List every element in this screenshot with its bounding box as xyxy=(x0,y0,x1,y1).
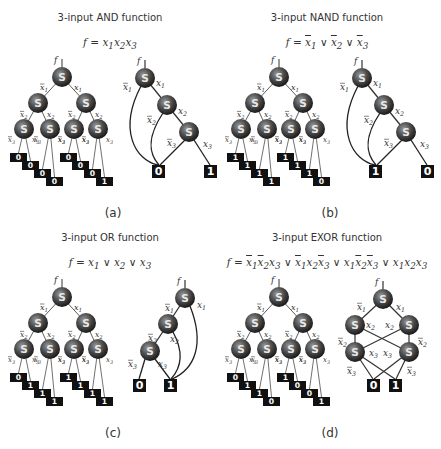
switch-node: S xyxy=(257,339,277,359)
svg-text:x1: x1 xyxy=(373,78,382,89)
edge xyxy=(139,359,145,379)
svg-text:x3: x3 xyxy=(158,359,167,370)
svg-text:x3: x3 xyxy=(383,348,392,359)
switch-node: S xyxy=(64,339,84,359)
edge-label: x3 xyxy=(369,348,378,359)
svg-text:x2: x2 xyxy=(147,115,156,126)
switch-node: S xyxy=(28,93,48,113)
svg-text:x3: x3 xyxy=(225,356,232,365)
svg-text:x3: x3 xyxy=(82,356,89,365)
output-label: f xyxy=(353,56,359,66)
svg-text:S: S xyxy=(351,319,359,331)
switch-node: S xyxy=(52,287,72,307)
panel-d: fx1x1x2x2x2x2x3x3x3x3x3x3x3x3SSSSSSS0110… xyxy=(225,275,427,406)
svg-text:x2: x2 xyxy=(95,110,103,120)
edge-label: x1 xyxy=(257,303,265,313)
svg-text:x2: x2 xyxy=(312,330,320,340)
svg-text:1: 1 xyxy=(102,397,107,406)
svg-text:S: S xyxy=(299,97,307,109)
terminal-leaf: 0 xyxy=(10,153,27,162)
svg-text:S: S xyxy=(82,317,90,329)
svg-text:1: 1 xyxy=(269,177,274,186)
svg-text:S: S xyxy=(185,126,193,138)
edge-label: x1 xyxy=(291,83,299,93)
diagram-canvas: fx1x1x2x2x2x2x3x3x3x3x3x3x3x3SSSSSSS0000… xyxy=(0,0,441,449)
svg-text:x3: x3 xyxy=(384,138,393,149)
output-label: f xyxy=(53,55,59,65)
output-label: f xyxy=(176,276,182,286)
svg-text:1: 1 xyxy=(102,177,107,186)
svg-text:x2: x2 xyxy=(338,337,347,348)
svg-text:x2: x2 xyxy=(47,330,55,340)
edge-label: x3 xyxy=(167,138,176,149)
switch-node: S xyxy=(374,95,394,115)
edge-label: x2 xyxy=(147,115,156,126)
svg-text:x3: x3 xyxy=(167,138,176,149)
switch-node: S xyxy=(52,67,72,87)
boolean-formula: f = x1x2x3 ∨ x1x2x3 ∨ x1x2x3 ∨ x1x2x3 xyxy=(217,256,437,271)
svg-text:x1: x1 xyxy=(291,83,299,93)
switch-node: S xyxy=(179,122,199,142)
edge-label: x2 xyxy=(237,330,245,340)
svg-text:0: 0 xyxy=(78,161,83,170)
switch-node: S xyxy=(157,95,177,115)
switch-node: S xyxy=(257,119,277,139)
edge-label: x3 xyxy=(106,136,113,145)
svg-text:S: S xyxy=(141,72,149,84)
edge-label: x2 xyxy=(264,330,272,340)
switch-node: S xyxy=(269,287,289,307)
switch-node: S xyxy=(345,342,365,362)
svg-text:S: S xyxy=(405,319,413,331)
edge-label: x1 xyxy=(74,303,82,313)
edge-label: x3 xyxy=(8,356,15,365)
terminal-leaf: 1 xyxy=(227,153,244,162)
switch-node: S xyxy=(293,313,313,333)
switch-node: S xyxy=(135,68,155,88)
svg-text:0: 0 xyxy=(295,381,300,390)
edge-label: x3 xyxy=(82,136,89,145)
svg-text:0: 0 xyxy=(16,373,21,382)
svg-text:S: S xyxy=(46,343,54,355)
terminal-leaf: 1 xyxy=(263,177,280,186)
terminal-leaf: 0 xyxy=(133,379,146,392)
edge-label: x2 xyxy=(338,337,347,348)
switch-node: S xyxy=(40,119,60,139)
svg-text:1: 1 xyxy=(257,389,262,398)
terminal-leaf: 1 xyxy=(289,161,306,170)
svg-text:1: 1 xyxy=(295,161,300,170)
switch-node: S xyxy=(352,68,372,88)
svg-text:S: S xyxy=(34,317,42,329)
panel-caption: (d) xyxy=(310,426,350,440)
terminal-leaf: 1 xyxy=(301,169,318,178)
svg-text:0: 0 xyxy=(233,373,238,382)
terminal-leaf: 0 xyxy=(263,397,280,406)
svg-text:S: S xyxy=(405,346,413,358)
reduced-diagram: fx1x1x2x2x3x3SSS01 xyxy=(123,56,217,178)
svg-text:S: S xyxy=(181,292,189,304)
svg-text:S: S xyxy=(311,343,319,355)
svg-text:0: 0 xyxy=(40,169,45,178)
edge-label: x3 xyxy=(275,136,282,145)
svg-text:S: S xyxy=(58,291,66,303)
edge-label: x3 xyxy=(225,356,232,365)
svg-text:x1: x1 xyxy=(291,303,299,313)
edge-label: x3 xyxy=(299,136,306,145)
switch-node: S xyxy=(88,339,108,359)
decision-tree: fx1x1x2x2x2x2x3x3x3x3x3x3x3x3SSSSSSS0110… xyxy=(225,275,330,406)
svg-text:x3: x3 xyxy=(8,136,15,145)
svg-text:0: 0 xyxy=(307,389,312,398)
svg-text:x3: x3 xyxy=(106,136,113,145)
edge-label: x3 xyxy=(58,136,65,145)
edge-label: x2 xyxy=(237,110,245,120)
panel-b: fx1x1x2x2x2x2x3x3x3x3x3x3x3x3SSSSSSS1111… xyxy=(225,55,434,186)
terminal-leaf: 1 xyxy=(96,177,113,186)
edge-label: x1 xyxy=(373,78,382,89)
output-label: f xyxy=(136,56,142,66)
switch-node: S xyxy=(40,339,60,359)
terminal-leaf: 1 xyxy=(251,389,268,398)
svg-text:S: S xyxy=(358,72,366,84)
panel-title: 3-input AND function xyxy=(0,12,220,23)
terminal-leaf: 1 xyxy=(72,381,89,390)
svg-text:x3: x3 xyxy=(203,139,212,150)
panel-caption: (b) xyxy=(310,206,350,220)
